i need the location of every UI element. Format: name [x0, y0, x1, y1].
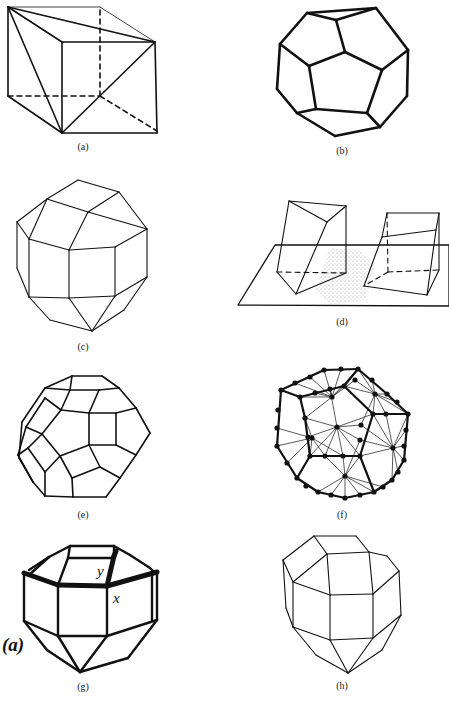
- vertex-dot: [403, 427, 408, 432]
- edge: [277, 201, 289, 272]
- vertex-dot: [355, 366, 360, 371]
- edge: [373, 615, 401, 638]
- edge: [369, 552, 373, 594]
- hidden-edge: [100, 96, 157, 131]
- vertex-dot: [307, 453, 312, 458]
- vertex-dot: [329, 394, 334, 399]
- edge: [29, 557, 49, 575]
- edge: [61, 390, 70, 410]
- edge: [330, 594, 373, 595]
- edge: [286, 608, 293, 627]
- caption-f: (f): [337, 509, 347, 520]
- edge: [45, 398, 61, 410]
- face-edge: [344, 386, 373, 414]
- caption-e: (e): [77, 509, 88, 520]
- vertex-dot: [274, 425, 279, 430]
- edge: [42, 410, 61, 434]
- edge: [387, 556, 399, 571]
- edge: [382, 213, 387, 237]
- edge: [348, 638, 373, 673]
- vertex-dot: [302, 415, 307, 420]
- hidden-edge: [388, 270, 439, 272]
- edge: [58, 636, 80, 672]
- vertex-dot: [305, 434, 310, 439]
- edge: [136, 408, 150, 433]
- caption-a: (a): [77, 141, 88, 152]
- triangulation-edge: [337, 427, 360, 440]
- edge: [69, 296, 115, 298]
- edge: [136, 433, 150, 455]
- edge: [62, 42, 155, 133]
- edge: [100, 467, 120, 478]
- edge: [17, 222, 29, 239]
- vertex-label-x: x: [113, 590, 120, 607]
- edge: [42, 434, 60, 456]
- vertex-dot: [327, 386, 332, 391]
- triangulation-edge: [337, 414, 373, 427]
- triangulation-edge: [337, 427, 360, 456]
- vertex-dot: [401, 457, 406, 462]
- edge: [376, 8, 408, 50]
- edge: [60, 456, 72, 478]
- vertex-dot: [292, 380, 297, 385]
- triangulation-edge: [360, 448, 393, 456]
- vertex-label-y: y: [97, 563, 104, 580]
- edge: [116, 445, 136, 455]
- edge: [47, 180, 78, 199]
- edge: [119, 192, 147, 229]
- edge: [382, 615, 401, 650]
- edge: [17, 268, 29, 297]
- edge: [88, 212, 147, 229]
- edge: [18, 455, 33, 482]
- vertex-dot: [394, 399, 399, 404]
- vertex-dot: [278, 387, 283, 392]
- vertex-dot: [405, 411, 410, 416]
- vertex-dot: [370, 411, 375, 416]
- thick-belt-edge: [24, 573, 58, 585]
- edge: [335, 127, 380, 136]
- vertex-dot: [342, 495, 347, 500]
- edge: [72, 467, 100, 478]
- panel-g-belted-polyhedron: [24, 546, 157, 672]
- edge: [407, 50, 408, 96]
- vertex-dot: [307, 374, 312, 379]
- edge: [277, 44, 280, 89]
- triangulation-edge: [312, 438, 343, 456]
- vertex-dot: [275, 407, 280, 412]
- edge: [345, 52, 382, 70]
- edge: [327, 206, 346, 222]
- triangulation-edge: [345, 476, 383, 487]
- edge: [280, 13, 307, 44]
- vertex-dot: [312, 390, 317, 395]
- edge: [124, 277, 147, 310]
- thick-belt-edge: [114, 551, 116, 556]
- edge: [17, 199, 47, 222]
- triangulation-edge: [331, 476, 345, 495]
- triangulation-edge: [392, 448, 393, 480]
- vertex-dot: [274, 443, 279, 448]
- vertex-dot: [315, 489, 320, 494]
- edge: [45, 376, 72, 388]
- polyhedra-drawings: [0, 0, 449, 707]
- vertex-dot: [303, 483, 308, 488]
- vertex-dot: [357, 492, 362, 497]
- triangulation-edge: [310, 438, 312, 456]
- edge: [297, 113, 335, 136]
- edge: [69, 212, 88, 250]
- edge: [47, 650, 80, 672]
- edge: [120, 455, 136, 478]
- vertex-dot: [401, 443, 406, 448]
- triangulation-edge: [305, 418, 337, 427]
- panel-a-cube-tetrahedron: [8, 7, 157, 133]
- vertex-dot: [395, 469, 400, 474]
- edge: [367, 70, 382, 113]
- hidden-edge: [387, 213, 388, 272]
- edge: [28, 434, 42, 448]
- part-label-a: (a): [2, 634, 24, 656]
- edge: [26, 427, 42, 434]
- edge: [119, 388, 136, 408]
- edge: [155, 42, 157, 133]
- edge: [130, 555, 150, 568]
- vertex-dot: [328, 492, 333, 497]
- vertex-dot: [334, 424, 339, 429]
